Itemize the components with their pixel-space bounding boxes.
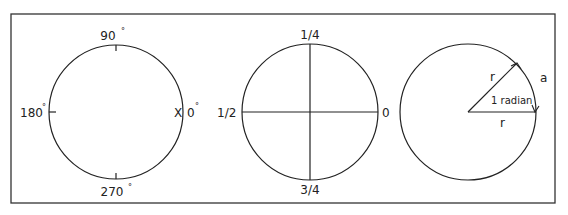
label-quarter: 1/4 bbox=[300, 28, 319, 42]
label-arc: a bbox=[540, 71, 547, 85]
label-180: 180 bbox=[20, 106, 43, 120]
label-three-quarters: 3/4 bbox=[300, 183, 319, 197]
degree-symbol-180: ° bbox=[42, 103, 46, 112]
label-one-radian: 1 radian bbox=[491, 95, 532, 106]
label-zero: 0 bbox=[382, 106, 390, 120]
degree-symbol-270: ° bbox=[128, 183, 132, 192]
label-radius-lower: r bbox=[500, 116, 505, 130]
label-270: 270 bbox=[101, 185, 124, 199]
degree-symbol-90: ° bbox=[121, 27, 125, 36]
degrees-circle-panel: 90 ° 180 ° X 0 ° 270 ° bbox=[20, 27, 199, 199]
radian-circle-panel: r r a 1 radian bbox=[400, 44, 547, 180]
label-radius-upper: r bbox=[490, 70, 495, 84]
x-marker: X bbox=[174, 106, 182, 120]
turns-circle-panel: 1/4 1/2 0 3/4 bbox=[217, 28, 390, 197]
label-0: 0 bbox=[187, 106, 195, 120]
angle-diagram: 90 ° 180 ° X 0 ° 270 ° 1/4 1/2 0 3/4 r r… bbox=[0, 0, 568, 215]
label-90: 90 bbox=[100, 29, 115, 43]
label-half: 1/2 bbox=[217, 106, 236, 120]
degrees-circle bbox=[49, 45, 183, 179]
degree-symbol-0: ° bbox=[195, 102, 199, 111]
